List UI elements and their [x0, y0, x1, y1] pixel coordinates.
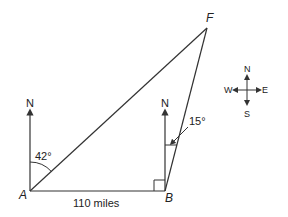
point-label-B: B: [165, 191, 173, 205]
north-label-B: N: [161, 97, 169, 109]
distance-label: 110 miles: [73, 197, 120, 209]
compass-east: E: [262, 85, 268, 95]
angle-pointer-B: [172, 127, 188, 143]
navigation-diagram: A B F N N 42° 15° 110 miles N S E W: [0, 0, 288, 217]
north-label-A: N: [26, 97, 34, 109]
right-angle-mark-B: [154, 180, 165, 191]
compass-rose: [235, 77, 259, 103]
side-AF: [30, 28, 207, 191]
side-BF: [165, 28, 207, 191]
compass-north: N: [244, 64, 251, 74]
compass-west: W: [224, 85, 233, 95]
point-label-F: F: [206, 11, 214, 25]
compass-south: S: [244, 109, 250, 119]
angle-arc-A: [30, 162, 52, 172]
point-label-A: A: [18, 188, 27, 202]
angle-label-B: 15°: [189, 115, 206, 127]
angle-label-A: 42°: [35, 150, 52, 162]
